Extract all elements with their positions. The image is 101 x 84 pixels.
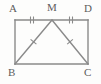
rectangle-abcd (15, 20, 88, 64)
vertex-label-b: B (8, 67, 15, 78)
vertex-label-c: C (84, 67, 91, 78)
vertex-label-d: D (84, 3, 92, 14)
vertex-label-m: M (47, 2, 57, 13)
vertex-label-a: A (9, 3, 17, 14)
triangle-mbc (15, 20, 88, 64)
geometry-figure: A M D B C (0, 0, 101, 84)
